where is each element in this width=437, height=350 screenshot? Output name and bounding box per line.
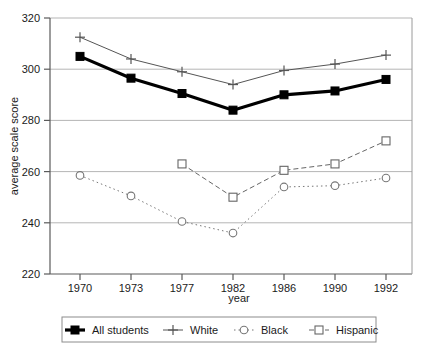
line-chart: 220240260280300320 197019731977198219861… bbox=[0, 0, 437, 350]
data-point-marker bbox=[178, 90, 186, 98]
data-point-marker bbox=[280, 166, 288, 174]
data-point-marker bbox=[331, 87, 339, 95]
x-tick-label: 1973 bbox=[119, 282, 143, 294]
x-tick-label: 1992 bbox=[374, 282, 398, 294]
data-point-marker bbox=[280, 91, 288, 99]
data-point-marker bbox=[382, 75, 390, 83]
legend-label: All students bbox=[92, 324, 149, 336]
data-point-marker bbox=[127, 74, 135, 82]
y-axis-title: average scale score bbox=[8, 97, 20, 195]
data-point-marker bbox=[229, 229, 237, 237]
data-point-marker bbox=[229, 193, 237, 201]
series-line bbox=[80, 175, 386, 233]
legend-label: Hispanic bbox=[336, 324, 379, 336]
legend-item-hispanic[interactable]: Hispanic bbox=[309, 324, 379, 336]
x-tick-label: 1986 bbox=[272, 282, 296, 294]
data-point-marker bbox=[127, 192, 135, 200]
data-point-marker bbox=[178, 218, 186, 226]
x-axis-title: year bbox=[228, 292, 250, 304]
data-point-marker bbox=[331, 182, 339, 190]
data-point-marker bbox=[76, 172, 84, 180]
data-point-marker bbox=[280, 183, 288, 191]
chart-legend: All studentsWhiteBlackHispanic bbox=[62, 317, 379, 342]
y-tick-label: 280 bbox=[22, 114, 40, 126]
y-tick-label: 220 bbox=[22, 268, 40, 280]
y-axis-ticks: 220240260280300320 bbox=[22, 12, 50, 280]
series-hispanic bbox=[178, 137, 390, 201]
y-tick-label: 300 bbox=[22, 63, 40, 75]
legend-label: Black bbox=[261, 324, 288, 336]
x-tick-label: 1990 bbox=[323, 282, 347, 294]
data-point-marker bbox=[382, 137, 390, 145]
data-point-marker bbox=[76, 52, 84, 60]
data-series-layer bbox=[75, 32, 391, 237]
gridlines bbox=[50, 18, 412, 223]
chart-figure: 220240260280300320 197019731977198219861… bbox=[0, 0, 437, 350]
legend-item-all-students[interactable]: All students bbox=[65, 324, 149, 336]
data-point-marker bbox=[382, 174, 390, 182]
legend-label: White bbox=[190, 324, 218, 336]
y-tick-label: 320 bbox=[22, 12, 40, 24]
y-tick-label: 240 bbox=[22, 217, 40, 229]
data-point-marker bbox=[71, 326, 79, 334]
data-point-marker bbox=[229, 106, 237, 114]
x-tick-label: 1970 bbox=[68, 282, 92, 294]
series-black bbox=[76, 172, 390, 237]
data-point-marker bbox=[331, 160, 339, 168]
data-point-marker bbox=[315, 326, 323, 334]
y-tick-label: 260 bbox=[22, 166, 40, 178]
series-white bbox=[75, 32, 391, 89]
x-tick-label: 1977 bbox=[170, 282, 194, 294]
x-axis-ticks: 1970197319771982198619901992 bbox=[68, 274, 398, 294]
data-point-marker bbox=[178, 160, 186, 168]
data-point-marker bbox=[240, 326, 248, 334]
